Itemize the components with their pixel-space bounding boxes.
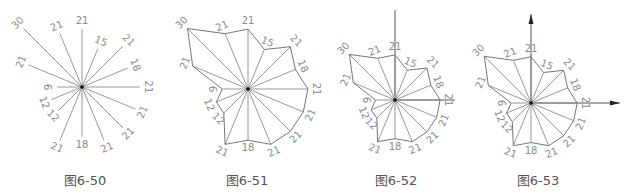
value-label-N: 21 <box>525 43 538 54</box>
wind-rose-diagram-set: 2115211821212121182112129213021211521182… <box>0 0 627 192</box>
spoke-NW <box>24 29 82 87</box>
value-label-NNW: 21 <box>367 43 383 58</box>
value-label-E: 21 <box>443 94 454 107</box>
value-label-NW: 30 <box>9 14 26 31</box>
center-point <box>393 98 397 102</box>
value-label-WNW: 21 <box>473 74 488 90</box>
value-label-ENE: 18 <box>568 77 583 93</box>
fig-6-53: 2115211821212121182112129213021 <box>470 14 620 160</box>
value-label-E: 21 <box>311 83 322 96</box>
spoke-NE <box>248 47 290 89</box>
spoke-SW <box>377 100 395 118</box>
spoke-SE <box>531 103 564 136</box>
value-label-E: 21 <box>143 81 154 94</box>
wind-rose-canvas: 2115211821212121182112129213021211521182… <box>0 0 627 192</box>
value-label-NNE: 15 <box>93 34 109 49</box>
spoke-SE <box>82 87 123 128</box>
value-label-WNW: 21 <box>338 72 353 88</box>
value-label-N: 21 <box>242 15 255 26</box>
value-label-ESE: 21 <box>303 107 318 123</box>
value-label-W: 9 <box>208 86 219 92</box>
value-label-WSW: 12 <box>202 97 217 113</box>
value-label-NNW: 21 <box>49 18 65 33</box>
value-label-ESE: 21 <box>135 104 150 120</box>
value-label-SSE: 21 <box>407 141 423 156</box>
value-label-WSW: 12 <box>37 95 52 111</box>
fig-6-51: 2115211821212121182112129213021 <box>173 14 322 159</box>
value-label-S: 18 <box>525 145 538 156</box>
value-label-N: 21 <box>76 15 89 26</box>
spoke-SW <box>59 87 82 110</box>
value-label-SSE: 21 <box>266 144 282 159</box>
value-label-NNW: 21 <box>502 45 518 60</box>
caption-fig-6-52: 图6-52 <box>375 170 418 189</box>
value-label-SSW: 21 <box>367 141 383 156</box>
center-point <box>246 87 250 91</box>
spoke-NE <box>531 70 564 103</box>
spoke-NE <box>82 46 123 87</box>
spoke-NE <box>395 68 427 100</box>
value-label-E: 21 <box>580 97 591 110</box>
spoke-SW <box>224 89 248 113</box>
value-label-WNW: 21 <box>177 55 192 71</box>
north-arrow-icon <box>529 14 534 24</box>
value-label-SSE: 21 <box>544 145 560 160</box>
spoke-NW <box>188 29 249 90</box>
center-point <box>529 101 533 105</box>
value-label-ENE: 18 <box>296 58 311 74</box>
value-label-W: 9 <box>362 97 373 103</box>
value-label-SSW: 21 <box>503 145 519 160</box>
value-label-ENE: 18 <box>128 57 143 73</box>
value-label-S: 18 <box>389 141 402 152</box>
value-label-W: 9 <box>497 100 508 106</box>
value-label-NNW: 21 <box>214 18 230 33</box>
spoke-SE <box>248 89 290 131</box>
spoke-SE <box>395 100 427 132</box>
value-label-ESE: 21 <box>573 116 588 132</box>
fig-6-52: 2115211821212121182112129213021 <box>335 10 455 156</box>
value-label-NE: 21 <box>120 32 137 49</box>
value-label-ENE: 18 <box>431 74 446 90</box>
spoke-SW <box>512 103 531 122</box>
spoke-NW <box>349 54 395 100</box>
value-label-S: 18 <box>242 142 255 153</box>
value-label-ESE: 21 <box>436 112 451 128</box>
caption-fig-6-50: 图6-50 <box>64 170 107 189</box>
east-arrow-icon <box>610 101 620 106</box>
value-label-S: 18 <box>76 139 89 150</box>
spoke-NW <box>484 56 531 103</box>
caption-fig-6-53: 图6-53 <box>517 170 560 189</box>
value-label-SSW: 21 <box>49 140 65 155</box>
caption-fig-6-51: 图6-51 <box>226 170 269 189</box>
center-point <box>80 85 84 89</box>
fig-6-50: 2115211821212121182112129213021 <box>9 14 154 155</box>
value-label-SSE: 21 <box>99 140 115 155</box>
value-label-WNW: 21 <box>13 54 28 70</box>
value-label-W: 9 <box>43 84 54 90</box>
value-label-N: 21 <box>389 41 402 52</box>
value-label-SSW: 21 <box>214 144 230 159</box>
